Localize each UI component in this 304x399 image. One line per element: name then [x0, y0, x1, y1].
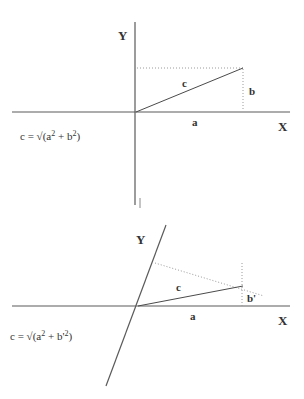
hypotenuse-label-bottom: c	[176, 281, 181, 293]
side-a-label-top: a	[192, 116, 198, 128]
side-bprime-label-bottom: b'	[247, 292, 256, 304]
side-a-label-bottom: a	[190, 310, 196, 322]
y-axis-label-bottom: Y	[136, 232, 146, 247]
geometry-figures: Y X c b a c = √(a2 + b2) Y	[0, 0, 304, 399]
diagram-page: Y X c b a c = √(a2 + b2) Y	[0, 0, 304, 399]
formula-bottom-close: )	[68, 330, 72, 343]
formula-top-plus: +	[55, 130, 67, 142]
hypotenuse-line-bottom	[138, 286, 243, 306]
hypotenuse-line-top	[136, 68, 243, 112]
x-axis-label-top: X	[278, 119, 288, 134]
x-axis-label-bottom: X	[278, 313, 288, 328]
formula-bottom-plus: +	[45, 330, 57, 342]
side-b-label-top: b	[249, 85, 255, 97]
formula-top: c = √(a2 + b2)	[20, 129, 80, 143]
formula-bottom: c = √(a2 + b'2)	[10, 329, 72, 343]
formula-bottom-lhs: c =	[10, 330, 27, 342]
formula-top-lhs: c =	[20, 130, 37, 142]
formula-bottom-term2: b'	[57, 330, 65, 342]
formula-top-close: )	[76, 130, 80, 143]
y-axis-label-top: Y	[118, 28, 128, 43]
hypotenuse-label-top: c	[182, 77, 187, 89]
orthogonal-axes-figure: Y X c b a c = √(a2 + b2)	[12, 22, 290, 205]
oblique-axes-figure: Y X c b' a c = √(a2 + b'2)	[10, 198, 290, 386]
